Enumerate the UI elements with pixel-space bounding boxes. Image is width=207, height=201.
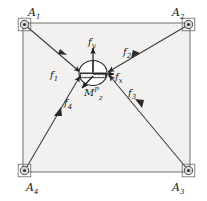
- moment-subscript: z: [98, 94, 103, 102]
- anchor-label-A4: A4: [25, 181, 38, 196]
- anchor-label-A3: A3: [171, 181, 185, 196]
- anchor-label-A1: A1: [27, 6, 40, 21]
- free-body-diagram: A1 A2 A3 A4 f1 f2 f3 f4: [0, 0, 207, 201]
- figure-canvas: A1 A2 A3 A4 f1 f2 f3 f4: [0, 0, 207, 201]
- anchor-label-A2: A2: [171, 6, 185, 21]
- moment-letter: M: [83, 87, 95, 98]
